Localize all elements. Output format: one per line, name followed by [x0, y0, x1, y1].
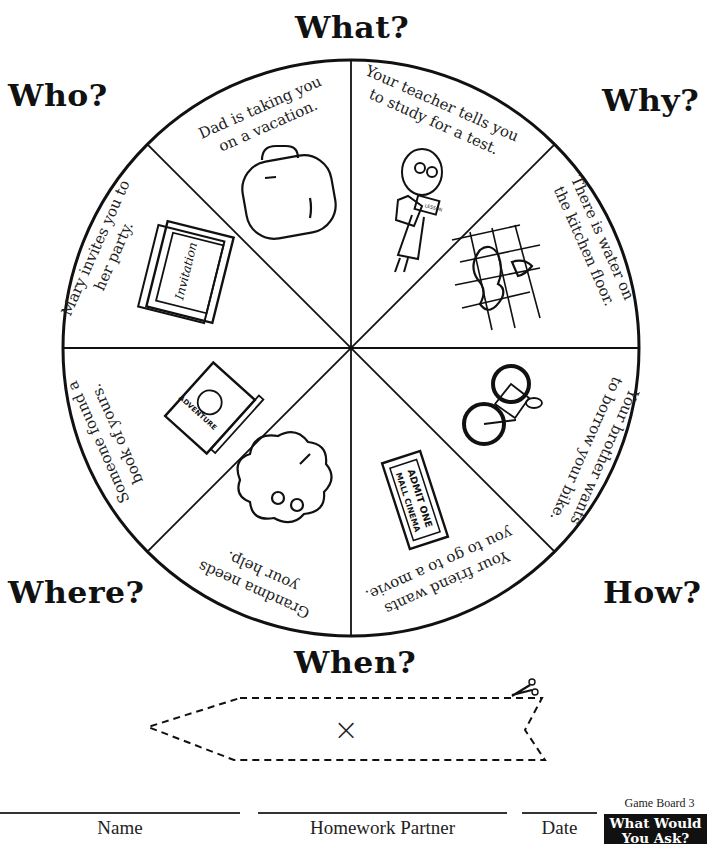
wheel-dividers [63, 60, 639, 636]
segment-teacher[interactable]: Your teacher tells you to study for a te… [353, 61, 521, 272]
bicycle-icon [464, 366, 542, 444]
grandma-icon [238, 432, 332, 522]
water-puddle-icon [452, 225, 540, 330]
lesson-book-text: LESSON [424, 203, 443, 212]
segment-movie[interactable]: Your friend wants you to go to a movie. … [363, 451, 525, 623]
date-label: Date [522, 817, 597, 839]
suitcase-icon [238, 146, 340, 243]
title-badge: What Would You Ask? [604, 814, 707, 844]
date-line[interactable] [522, 812, 597, 814]
badge-line-1: What Would [604, 816, 707, 831]
adventure-book-icon: ADVENTURE [164, 357, 264, 458]
scissors-icon [512, 679, 538, 696]
segment-grandma[interactable]: Grandma needs your help. [195, 432, 331, 622]
segment-bike[interactable]: Your brother wants to borrow your bike. [464, 366, 644, 532]
spinner-center-mark: × [333, 712, 358, 747]
partner-label: Homework Partner [258, 817, 507, 839]
movie-ticket-icon: ADMIT ONE MALL CINEMA [382, 451, 448, 549]
game-board-number: Game Board 3 [612, 796, 707, 811]
segment-book[interactable]: Someone found a book of yours. ADVENTURE [63, 357, 263, 506]
invitation-icon: Invitation [138, 219, 234, 325]
name-label: Name [0, 817, 240, 839]
badge-line-2: You Ask? [604, 831, 707, 844]
segment-water[interactable]: There is water on the kitchen floor. [452, 173, 638, 330]
name-line[interactable] [0, 812, 240, 814]
spinner-arrow-cutout[interactable]: × [148, 679, 545, 760]
partner-line[interactable] [258, 812, 507, 814]
segment-vacation[interactable]: Dad is taking you on a vacation. [196, 72, 340, 243]
segment-party[interactable]: Mary invites you to her party. Invitatio… [57, 177, 233, 327]
